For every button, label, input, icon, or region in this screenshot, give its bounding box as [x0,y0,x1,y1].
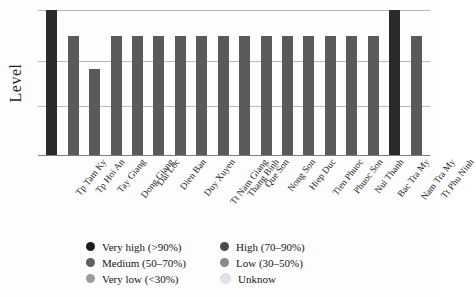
bar-slot [84,10,105,155]
legend-item[interactable]: High (70–90%) [220,239,305,254]
bar-slot [320,10,341,155]
chart-legend: Very high (>90%)Medium (50–70%)Very low … [86,239,361,289]
bar[interactable] [175,36,186,155]
bar[interactable] [411,36,422,155]
bar-slot [191,10,212,155]
legend-item[interactable]: Unknow [220,271,305,286]
bar-slot [277,10,298,155]
bar-slot [298,10,319,155]
bar[interactable] [325,36,336,155]
bar-slot [127,10,148,155]
bar-slot [41,10,62,155]
bar-slot [384,10,405,155]
legend-item[interactable]: Low (30–50%) [220,255,305,270]
legend-item-label: Medium (50–70%) [102,257,186,269]
bar[interactable] [346,36,357,155]
bar-slot [62,10,83,155]
bar[interactable] [89,69,100,155]
legend-item-label: Unknow [238,273,276,285]
legend-swatch-icon [86,274,95,283]
bar[interactable] [132,36,143,155]
bar[interactable] [368,36,379,155]
legend-item-label: Very high (>90%) [102,241,182,253]
legend-item-label: Low (30–50%) [236,257,303,269]
bar[interactable] [389,10,400,155]
legend-swatch-icon [220,242,229,251]
legend-item-label: High (70–90%) [236,241,305,253]
bar-slot [405,10,426,155]
legend-item[interactable]: Medium (50–70%) [86,255,186,270]
legend-item[interactable]: Very low (<30%) [86,271,186,286]
bar[interactable] [239,36,250,155]
bar[interactable] [46,10,57,155]
bar[interactable] [282,36,293,155]
legend-swatch-icon [86,258,95,267]
bar-slot [105,10,126,155]
bar[interactable] [153,36,164,155]
legend-item[interactable]: Very high (>90%) [86,239,186,254]
bar-slot [341,10,362,155]
legend-swatch-icon [86,242,95,251]
bar[interactable] [218,36,229,155]
plot-area [38,10,430,156]
legend-swatch-icon [220,258,229,267]
bar-slot [213,10,234,155]
legend-column-right: High (70–90%)Low (30–50%)Unknow [220,239,305,287]
legend-swatch-icon [220,273,231,284]
legend-item-label: Very low (<30%) [102,273,178,285]
legend-column-left: Very high (>90%)Medium (50–70%)Very low … [86,239,186,287]
y-axis-title-container: Level [2,10,30,155]
bar[interactable] [111,36,122,155]
bar-slot [234,10,255,155]
x-axis-tick-labels: Tp Tam KyTp Hoi AnTay GiangDong GiangDai… [38,157,430,237]
x-axis-line [38,155,430,156]
bar[interactable] [261,36,272,155]
bar-slot [170,10,191,155]
bar[interactable] [68,36,79,155]
bar[interactable] [196,36,207,155]
y-axis-title: Level [7,63,25,102]
bar-slot [148,10,169,155]
bar[interactable] [303,36,314,155]
bar-slot [255,10,276,155]
bar-slot [363,10,384,155]
x-tick-label-text: Dien Ban [178,157,208,192]
bar-series [38,10,430,155]
